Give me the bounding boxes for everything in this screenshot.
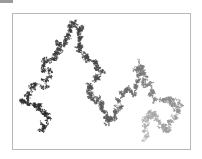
- walk-trajectory: [19, 19, 184, 141]
- random-walk-plot: [0, 0, 202, 159]
